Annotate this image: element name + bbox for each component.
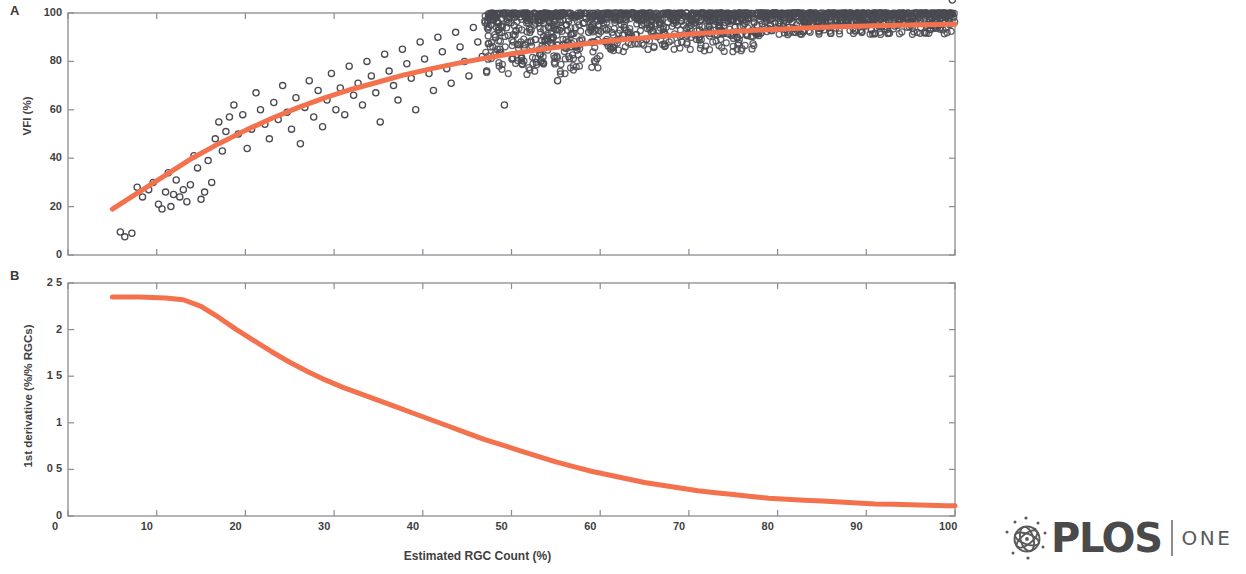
x-tick-label: 70 (673, 520, 685, 532)
y-tick-label: 80 (22, 54, 62, 66)
plos-journal-name: ONE (1182, 526, 1233, 550)
x-tick-label: 20 (229, 520, 241, 532)
plos-sphere-icon (1004, 515, 1050, 561)
figure-plot-area (0, 0, 1246, 574)
y-tick-label: 20 (22, 200, 62, 212)
x-tick-label: 40 (407, 520, 419, 532)
plos-one-logo: PLOS ONE (1004, 508, 1242, 568)
x-tick-label: 30 (318, 520, 330, 532)
x-tick-label: 0 (52, 520, 58, 532)
figure-container: A B VFI (%) 1st derivative (%/% RGCs) Es… (0, 0, 1246, 574)
y-tick-label: 100 (22, 6, 62, 18)
x-tick-label: 60 (584, 520, 596, 532)
logo-divider (1171, 520, 1173, 556)
y-tick-label: 2 5 (22, 276, 62, 288)
y-tick-label: 40 (22, 151, 62, 163)
x-tick-label: 100 (939, 520, 957, 532)
scatter-points (117, 0, 957, 240)
plos-wordmark: PLOS (1051, 518, 1162, 558)
y-tick-label: 1 (22, 416, 62, 428)
x-tick-label: 90 (850, 520, 862, 532)
y-tick-label: 2 (22, 323, 62, 335)
x-tick-label: 50 (496, 520, 508, 532)
y-tick-label: 60 (22, 103, 62, 115)
y-tick-label: 0 5 (22, 462, 62, 474)
y-tick-label: 0 (22, 248, 62, 260)
x-tick-label: 10 (141, 520, 153, 532)
y-tick-label: 1 5 (22, 369, 62, 381)
y-tick-label: 0 (22, 509, 62, 521)
derivative-curve (112, 297, 955, 506)
x-tick-label: 80 (762, 520, 774, 532)
fit-curve (112, 24, 955, 209)
